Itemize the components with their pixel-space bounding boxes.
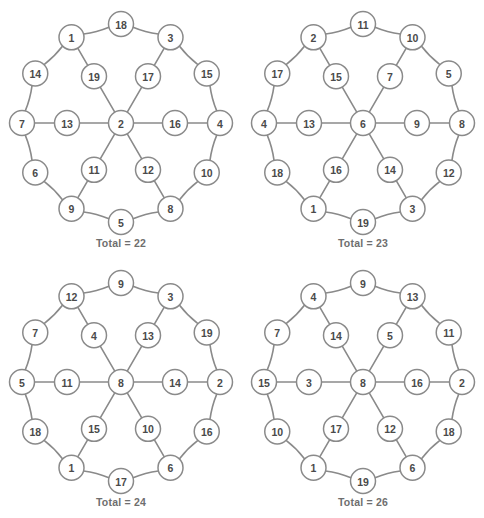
node-value: 2 bbox=[311, 32, 317, 44]
puzzle-panel: 17115121918421083113157914166Total = 23 bbox=[242, 0, 484, 259]
node-value: 11 bbox=[357, 19, 368, 31]
spoke-outer-node: 1 bbox=[59, 25, 84, 50]
node-value: 7 bbox=[387, 71, 393, 83]
spoke-outer-node: 4 bbox=[301, 284, 326, 309]
node-value: 3 bbox=[168, 32, 174, 44]
spoke-outer-node: 12 bbox=[59, 284, 84, 309]
node-value: 19 bbox=[201, 327, 213, 339]
node-value: 5 bbox=[19, 377, 25, 389]
spoke-inner-node: 15 bbox=[324, 64, 349, 89]
spoke-outer-node: 6 bbox=[400, 455, 425, 480]
rim-node: 5 bbox=[109, 210, 134, 235]
rim-node: 11 bbox=[436, 320, 461, 345]
node-value: 6 bbox=[410, 462, 416, 474]
spoke-inner-node: 11 bbox=[82, 157, 107, 182]
node-value: 16 bbox=[330, 164, 342, 176]
node-value: 7 bbox=[274, 327, 280, 339]
spoke-inner-node: 12 bbox=[378, 416, 403, 441]
spoke-inner-node: 5 bbox=[378, 323, 403, 348]
rim-node: 19 bbox=[194, 320, 219, 345]
node-value: 2 bbox=[217, 377, 223, 389]
node-value: 13 bbox=[61, 118, 73, 130]
rim-node: 18 bbox=[109, 12, 134, 37]
node-value: 10 bbox=[201, 167, 213, 179]
node-value: 7 bbox=[19, 118, 25, 130]
node-value: 7 bbox=[32, 327, 38, 339]
node-value: 6 bbox=[360, 118, 366, 130]
node-value: 19 bbox=[88, 71, 100, 83]
node-value: 3 bbox=[168, 291, 174, 303]
hub-node: 2 bbox=[109, 111, 134, 136]
spoke-inner-node: 14 bbox=[324, 323, 349, 348]
spoke-inner-node: 17 bbox=[136, 64, 161, 89]
spoke-inner-node: 13 bbox=[136, 323, 161, 348]
spoke-inner-node: 9 bbox=[405, 111, 430, 136]
spoke-outer-node: 10 bbox=[400, 25, 425, 50]
node-value: 4 bbox=[91, 330, 97, 342]
node-value: 4 bbox=[261, 118, 267, 130]
node-value: 18 bbox=[271, 167, 283, 179]
node-value: 10 bbox=[142, 423, 154, 435]
spoke-outer-node: 1 bbox=[301, 196, 326, 221]
node-value: 1 bbox=[69, 32, 75, 44]
rim-node: 7 bbox=[265, 320, 290, 345]
node-value: 2 bbox=[459, 377, 465, 389]
spoke-inner-node: 13 bbox=[297, 111, 322, 136]
spoke-outer-node: 3 bbox=[158, 284, 183, 309]
rim-node: 16 bbox=[194, 419, 219, 444]
node-value: 6 bbox=[32, 167, 38, 179]
node-value: 8 bbox=[459, 118, 465, 130]
node-value: 11 bbox=[443, 327, 454, 339]
rim-node: 17 bbox=[265, 61, 290, 86]
node-value: 1 bbox=[69, 462, 75, 474]
node-value: 12 bbox=[443, 167, 455, 179]
spoke-outer-node: 8 bbox=[158, 196, 183, 221]
spoke-inner-node: 14 bbox=[378, 157, 403, 182]
spoke-outer-node: 3 bbox=[400, 196, 425, 221]
node-value: 12 bbox=[384, 423, 396, 435]
node-value: 2 bbox=[118, 118, 124, 130]
spoke-inner-node: 13 bbox=[55, 111, 80, 136]
puzzle-panel: 79111819101541326131451612178Total = 26 bbox=[242, 259, 484, 518]
node-value: 17 bbox=[142, 71, 154, 83]
panel-total-caption: Total = 22 bbox=[0, 237, 242, 249]
node-value: 9 bbox=[414, 118, 420, 130]
node-value: 9 bbox=[360, 278, 366, 290]
rim-node: 17 bbox=[109, 469, 134, 494]
rim-node: 10 bbox=[265, 419, 290, 444]
spoke-outer-node: 2 bbox=[301, 25, 326, 50]
node-value: 4 bbox=[217, 118, 223, 130]
rim-node: 18 bbox=[23, 419, 48, 444]
spoke-outer-node: 2 bbox=[208, 370, 233, 395]
rim-node: 15 bbox=[194, 61, 219, 86]
node-value: 17 bbox=[271, 68, 283, 80]
node-value: 5 bbox=[446, 68, 452, 80]
node-value: 18 bbox=[115, 19, 127, 31]
node-value: 8 bbox=[118, 377, 124, 389]
rim-node: 5 bbox=[436, 61, 461, 86]
node-value: 17 bbox=[330, 423, 342, 435]
rim-node: 9 bbox=[351, 271, 376, 296]
node-value: 15 bbox=[201, 68, 213, 80]
puzzle-grid: 14181510567134891319171612112Total = 221… bbox=[0, 0, 484, 518]
node-value: 14 bbox=[169, 377, 181, 389]
spoke-inner-node: 10 bbox=[136, 416, 161, 441]
puzzle-panel: 79191617185123261114131410158Total = 24 bbox=[0, 259, 242, 518]
node-value: 8 bbox=[360, 377, 366, 389]
spoke-inner-node: 7 bbox=[378, 64, 403, 89]
spoke-outer-node: 4 bbox=[252, 111, 277, 136]
node-value: 9 bbox=[69, 203, 75, 215]
spoke-outer-node: 1 bbox=[301, 455, 326, 480]
node-value: 13 bbox=[303, 118, 315, 130]
node-value: 6 bbox=[168, 462, 174, 474]
hub-node: 6 bbox=[351, 111, 376, 136]
spoke-outer-node: 6 bbox=[158, 455, 183, 480]
rim-node: 14 bbox=[23, 61, 48, 86]
spoke-inner-node: 12 bbox=[136, 157, 161, 182]
node-value: 4 bbox=[311, 291, 317, 303]
spoke-inner-node: 14 bbox=[163, 370, 188, 395]
node-value: 15 bbox=[88, 423, 100, 435]
node-value: 17 bbox=[115, 476, 127, 488]
spoke-inner-node: 3 bbox=[297, 370, 322, 395]
node-value: 3 bbox=[410, 203, 416, 215]
